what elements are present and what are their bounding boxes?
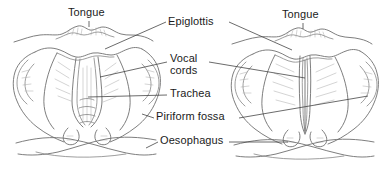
larynx-diagram: .ln { fill:none; stroke:#6f6f6f; stroke-…: [0, 0, 387, 174]
label-tongue-left: Tongue: [68, 7, 105, 19]
leader-epiglottis-right: [229, 22, 292, 50]
label-tongue-right: Tongue: [282, 9, 319, 21]
epiglottis-left: [35, 48, 142, 58]
tongue-base-right: [232, 28, 372, 44]
label-vocal-cords-line2: cords: [170, 65, 197, 77]
label-piriform-fossa: Piriform fossa: [156, 111, 225, 123]
piriform-fossa-right-right: [360, 62, 377, 106]
label-epiglottis: Epiglottis: [168, 16, 214, 28]
label-oesophagus: Oesophagus: [160, 135, 223, 147]
aryepiglottic-fold-left: [44, 53, 57, 129]
aryepiglottic-fold-right: [117, 55, 130, 130]
label-trachea: Trachea: [170, 88, 211, 100]
tongue-base-left: [14, 26, 153, 42]
leader-vocal-cords-right: [209, 62, 305, 78]
vocal-cords-left-open: [72, 57, 102, 127]
piriform-fossa-left-left: [17, 60, 34, 104]
label-vocal-cords: Vocalcords: [170, 53, 197, 76]
leader-oesophagus-left: [146, 142, 158, 148]
oesophagus-left: [16, 137, 156, 157]
aryepiglottic-fold-right-left: [262, 55, 275, 131]
piriform-fossa-left-right: [142, 60, 159, 104]
left-laryngoscopic-view: [13, 26, 160, 157]
vocal-cords-right-closed: [299, 56, 311, 134]
leader-epiglottis-left: [105, 22, 166, 49]
label-vocal-cords-line1: Vocal: [170, 52, 197, 64]
arytenoids-right: [283, 130, 327, 147]
pharyngeal-wall-right-view-right: [328, 51, 378, 144]
leader-vocal-cords-left: [100, 62, 167, 77]
epiglottis-right: [253, 50, 360, 60]
leader-lines: [88, 21, 368, 148]
right-laryngoscopic-view: [231, 28, 378, 159]
arytenoids-left: [63, 128, 111, 145]
aryepiglottic-fold-right-right: [335, 57, 348, 132]
